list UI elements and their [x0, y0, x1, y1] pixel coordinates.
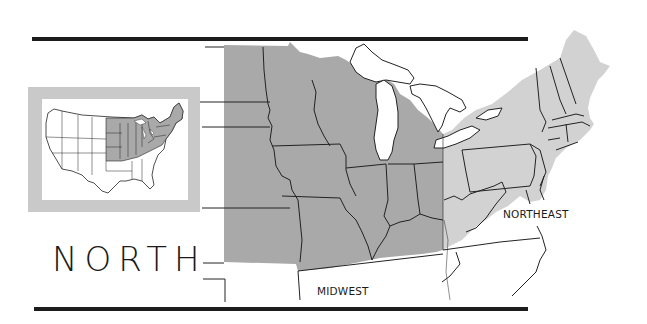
- label-midwest: MIDWEST: [317, 285, 369, 297]
- label-northeast: NORTHEAST: [503, 208, 569, 220]
- region-title: NORTH: [52, 242, 207, 276]
